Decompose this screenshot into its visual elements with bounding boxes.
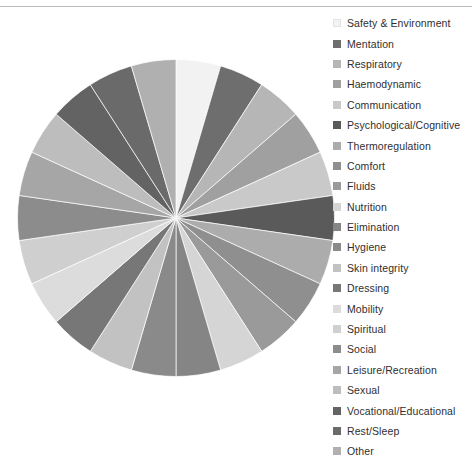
legend-item-label: Communication [347,99,421,111]
legend-item[interactable]: Other [333,441,472,459]
legend-swatch-icon [333,182,341,190]
legend-item[interactable]: Nutrition [333,197,472,217]
legend-swatch-icon [333,305,341,313]
legend-item[interactable]: Sexual [333,380,472,400]
legend-item[interactable]: Mentation [333,33,472,53]
legend-swatch-icon [333,40,341,48]
legend-item[interactable]: Fluids [333,176,472,196]
legend-item[interactable]: Communication [333,95,472,115]
legend-swatch-icon [333,203,341,211]
chart-legend: Safety & EnvironmentMentationRespiratory… [333,13,472,459]
legend-item[interactable]: Social [333,339,472,359]
legend-item[interactable]: Rest/Sleep [333,421,472,441]
legend-item-label: Nutrition [347,201,387,213]
legend-swatch-icon [333,223,341,231]
legend-item-label: Social [347,343,376,355]
legend-item-label: Dressing [347,282,389,294]
legend-swatch-icon [333,366,341,374]
legend-item-label: Hygiene [347,241,386,253]
legend-item-label: Comfort [347,160,385,172]
legend-item[interactable]: Comfort [333,156,472,176]
legend-item-label: Vocational/Educational [347,405,455,417]
legend-item-label: Leisure/Recreation [347,364,437,376]
pie-chart-svg [17,59,335,377]
legend-item[interactable]: Leisure/Recreation [333,360,472,380]
legend-item-label: Skin integrity [347,262,409,274]
top-divider-rule [0,6,472,7]
legend-item-label: Fluids [347,180,376,192]
legend-item[interactable]: Psychological/Cognitive [333,115,472,135]
legend-item[interactable]: Respiratory [333,54,472,74]
legend-swatch-icon [333,162,341,170]
legend-item-label: Spiritual [347,323,386,335]
legend-item[interactable]: Elimination [333,217,472,237]
legend-item-label: Haemodynamic [347,78,421,90]
legend-swatch-icon [333,345,341,353]
legend-swatch-icon [333,284,341,292]
legend-swatch-icon [333,264,341,272]
legend-item-label: Respiratory [347,58,402,70]
legend-swatch-icon [333,80,341,88]
legend-item[interactable]: Skin integrity [333,258,472,278]
legend-swatch-icon [333,325,341,333]
legend-swatch-icon [333,19,341,27]
legend-swatch-icon [333,121,341,129]
legend-item-label: Thermoregulation [347,140,431,152]
legend-item[interactable]: Thermoregulation [333,135,472,155]
legend-item-label: Rest/Sleep [347,425,399,437]
legend-item[interactable]: Dressing [333,278,472,298]
legend-item-label: Safety & Environment [347,17,451,29]
legend-item-label: Other [347,445,374,457]
legend-item[interactable]: Safety & Environment [333,13,472,33]
pie-chart-plot-area [17,59,335,377]
legend-swatch-icon [333,447,341,455]
legend-item[interactable]: Vocational/Educational [333,400,472,420]
legend-swatch-icon [333,142,341,150]
legend-item[interactable]: Mobility [333,298,472,318]
legend-swatch-icon [333,60,341,68]
legend-swatch-icon [333,101,341,109]
legend-item[interactable]: Hygiene [333,237,472,257]
legend-item[interactable]: Spiritual [333,319,472,339]
legend-item-label: Sexual [347,384,380,396]
legend-item-label: Mentation [347,38,394,50]
pie-slice-group [17,60,334,377]
legend-swatch-icon [333,407,341,415]
legend-swatch-icon [333,427,341,435]
legend-swatch-icon [333,386,341,394]
legend-item[interactable]: Haemodynamic [333,74,472,94]
legend-swatch-icon [333,243,341,251]
legend-item-label: Mobility [347,303,383,315]
legend-item-label: Elimination [347,221,399,233]
legend-item-label: Psychological/Cognitive [347,119,460,131]
